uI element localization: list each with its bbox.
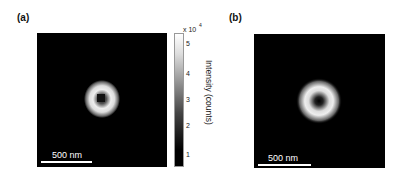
panel-a-image: 500 nm	[37, 33, 167, 167]
pixelated-donut	[37, 33, 167, 167]
scalebar-text: 500 nm	[268, 153, 298, 163]
colorbar-multiplier: x 10	[183, 26, 196, 33]
colorbar-tick: 2	[186, 122, 190, 129]
panel-a-label: (a)	[17, 12, 29, 23]
colorbar-tick: 5	[186, 40, 190, 47]
smooth-donut	[254, 34, 385, 168]
colorbar-tick: 4	[186, 70, 190, 77]
colorbar-exponent: 4	[199, 22, 202, 28]
panel-b-image: 500 nm	[254, 34, 385, 168]
scalebar	[258, 164, 311, 166]
scalebar-text: 500 nm	[52, 150, 82, 160]
colorbar-tick: 3	[186, 96, 190, 103]
colorbar-tick: 1	[186, 151, 190, 158]
colorbar	[174, 33, 184, 167]
scalebar	[41, 161, 92, 163]
colorbar-label: Intensity (counts)	[204, 60, 214, 125]
panel-b-label: (b)	[229, 12, 242, 23]
